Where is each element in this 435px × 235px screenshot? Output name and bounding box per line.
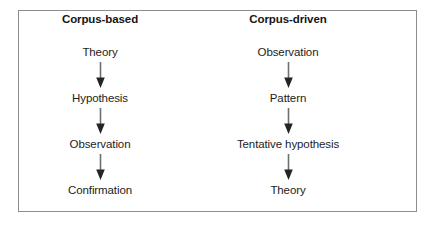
down-arrow-icon — [94, 108, 107, 134]
column-heading-corpus-based: Corpus-based — [62, 12, 138, 26]
down-arrow-icon — [282, 62, 295, 88]
flow-step-label: Observation — [258, 45, 319, 59]
flow-step-label: Confirmation — [68, 183, 132, 197]
flow-step-label: Observation — [70, 137, 131, 151]
down-arrow-icon — [282, 108, 295, 134]
down-arrow-icon — [282, 154, 295, 180]
flow-column-corpus-based: Corpus-based Theory Hypothesis Observati… — [15, 12, 185, 197]
down-arrow-icon — [94, 154, 107, 180]
flow-step-label: Pattern — [270, 91, 306, 105]
diagram-canvas: Corpus-based Theory Hypothesis Observati… — [0, 0, 435, 235]
flow-step-label: Theory — [270, 183, 305, 197]
flow-step-label: Theory — [82, 45, 117, 59]
down-arrow-icon — [94, 62, 107, 88]
flow-column-corpus-driven: Corpus-driven Observation Pattern Tentat… — [203, 12, 373, 197]
column-heading-corpus-driven: Corpus-driven — [249, 12, 326, 26]
flow-step-label: Tentative hypothesis — [237, 137, 339, 151]
flow-step-label: Hypothesis — [72, 91, 128, 105]
